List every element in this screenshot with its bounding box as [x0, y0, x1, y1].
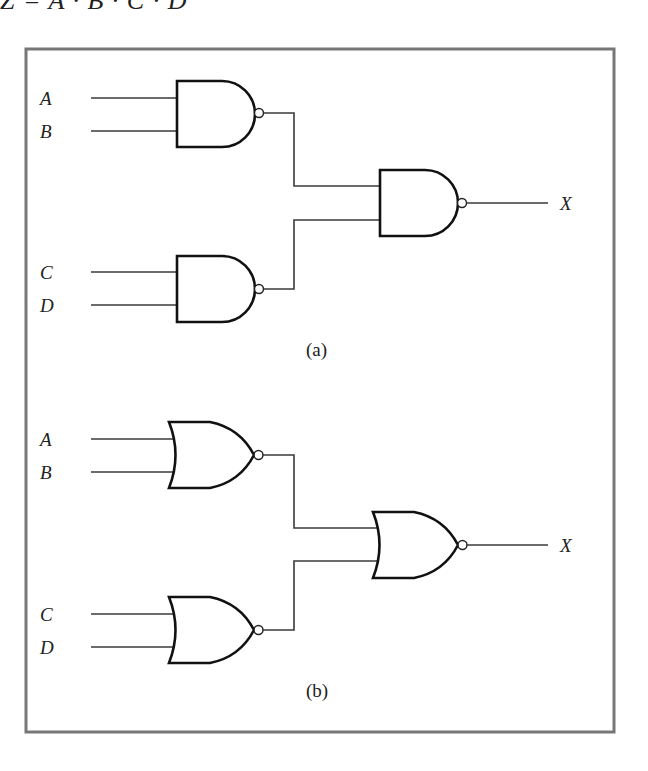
figure-frame — [26, 49, 614, 732]
input-label-b: B — [40, 462, 52, 483]
input-label-d: D — [39, 295, 54, 316]
caption-a: (a) — [306, 339, 327, 361]
inversion-bubble — [458, 199, 467, 208]
wire-nand2-out — [264, 220, 381, 289]
output-label-x: X — [559, 535, 573, 556]
input-label-a: A — [38, 429, 52, 450]
output-label-x: X — [559, 193, 573, 214]
input-label-d: D — [39, 637, 54, 658]
panel-b: A B C D X (b) — [38, 422, 573, 702]
input-label-c: C — [40, 262, 53, 283]
nor-gate-cd — [169, 597, 254, 663]
nor-gate-ab — [169, 422, 254, 488]
input-label-b: B — [40, 121, 52, 142]
inversion-bubble — [254, 626, 263, 635]
input-label-c: C — [40, 604, 53, 625]
panel-a: A B C D X (a) — [38, 81, 573, 361]
inversion-bubble — [254, 451, 263, 460]
nand-gate-ab — [177, 81, 255, 147]
wire-nor2-out — [263, 561, 378, 630]
caption-b: (b) — [306, 680, 328, 702]
input-label-a: A — [38, 88, 52, 109]
wire-nand1-out — [264, 113, 381, 186]
inversion-bubble — [255, 285, 264, 294]
logic-diagram: A B C D X (a) A B C D — [0, 0, 648, 771]
nand-gate-output — [380, 170, 458, 236]
nand-gate-cd — [177, 256, 255, 322]
wire-nor1-out — [263, 455, 378, 528]
inversion-bubble — [458, 541, 467, 550]
inversion-bubble — [255, 109, 264, 118]
nor-gate-output — [373, 512, 458, 578]
